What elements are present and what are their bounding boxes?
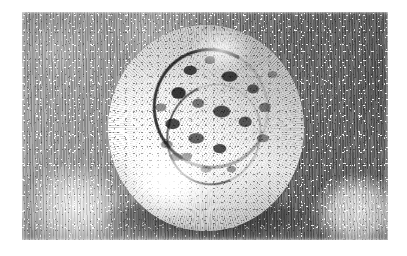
- engraving-plate: [22, 12, 388, 240]
- sphere-highlight: [108, 25, 304, 231]
- image-canvas: Engraved sphere on hatched ground: [0, 0, 407, 256]
- textured-sphere: [108, 25, 304, 231]
